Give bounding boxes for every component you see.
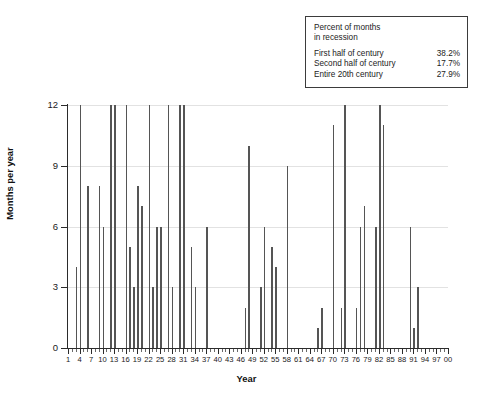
x-axis-tick-minor [156, 349, 157, 352]
x-axis-tick-minor [325, 349, 326, 352]
x-axis-tick-minor [210, 349, 211, 352]
bar [360, 227, 362, 349]
x-axis-tick-major [103, 349, 104, 354]
bar [133, 287, 135, 348]
y-axis-tick-label: 0 [20, 342, 58, 353]
x-axis-tick-major [126, 349, 127, 354]
bar [341, 308, 343, 349]
x-axis-tick-minor [76, 349, 77, 352]
legend-row-label: Second half of century [314, 59, 395, 70]
x-axis-tick-major [344, 349, 345, 354]
x-axis-tick-label: 34 [190, 355, 198, 364]
x-axis-tick-label: 82 [375, 355, 383, 364]
bar [126, 105, 128, 348]
x-axis-tick-major [252, 349, 253, 354]
y-axis-title: Months per year [4, 147, 15, 219]
legend-row-value: 27.9% [431, 70, 460, 81]
x-axis-tick-major [287, 349, 288, 354]
bar [110, 105, 112, 348]
bar [271, 247, 273, 348]
x-axis-tick-major [264, 349, 265, 354]
x-axis-tick-major [114, 349, 115, 354]
x-axis-tick-major [356, 349, 357, 354]
x-axis-tick-minor [429, 349, 430, 352]
x-axis-tick-label: 61 [294, 355, 302, 364]
x-axis-tick-major [160, 349, 161, 354]
x-axis-tick-minor [256, 349, 257, 352]
x-axis-tick-major [206, 349, 207, 354]
bar [152, 287, 154, 348]
x-axis-tick-minor [406, 349, 407, 352]
bar [248, 146, 250, 349]
bar [137, 186, 139, 348]
x-axis-tick-major [298, 349, 299, 354]
bar [383, 125, 385, 348]
x-axis-tick-minor [433, 349, 434, 352]
bar [168, 105, 170, 348]
x-axis-tick-minor [83, 349, 84, 352]
x-axis-tick-label: 88 [398, 355, 406, 364]
x-axis-tick-minor [337, 349, 338, 352]
x-axis-tick-minor [314, 349, 315, 352]
x-axis-tick-minor [294, 349, 295, 352]
x-axis-tick-label: 25 [156, 355, 164, 364]
bar [375, 227, 377, 349]
bar [245, 308, 247, 349]
x-axis-tick-major [241, 349, 242, 354]
bar [99, 186, 101, 348]
x-axis-line [67, 348, 449, 349]
bar [195, 287, 197, 348]
x-axis-tick-minor [421, 349, 422, 352]
bar [410, 227, 412, 349]
bar [80, 105, 82, 348]
x-axis-tick-minor [387, 349, 388, 352]
x-axis-tick-minor [175, 349, 176, 352]
x-axis-tick-minor [260, 349, 261, 352]
x-axis-tick-label: 7 [89, 355, 93, 364]
x-axis-tick-minor [168, 349, 169, 352]
x-axis-tick-minor [222, 349, 223, 352]
bar [183, 105, 185, 348]
x-axis-tick-major [91, 349, 92, 354]
x-axis-tick-minor [233, 349, 234, 352]
bar [321, 308, 323, 349]
legend-row-value: 38.2% [431, 49, 460, 60]
x-axis-tick-minor [72, 349, 73, 352]
x-axis-tick-minor [348, 349, 349, 352]
y-axis-tick-label: 6 [20, 221, 58, 232]
legend-row: First half of century38.2% [314, 49, 460, 60]
x-axis-tick-major [310, 349, 311, 354]
x-axis-tick-minor [87, 349, 88, 352]
x-axis-tick-major [413, 349, 414, 354]
bar [129, 247, 131, 348]
x-axis-tick-minor [410, 349, 411, 352]
x-axis-tick-minor [118, 349, 119, 352]
bar [149, 105, 151, 348]
x-axis-tick-major [402, 349, 403, 354]
x-axis-tick-label: 46 [236, 355, 244, 364]
x-axis-tick-minor [225, 349, 226, 352]
x-axis-tick-label: 31 [179, 355, 187, 364]
x-axis-tick-label: 70 [329, 355, 337, 364]
bar [287, 166, 289, 348]
bar [160, 227, 162, 349]
x-axis-tick-minor [268, 349, 269, 352]
x-axis-tick-minor [110, 349, 111, 352]
x-axis-tick-major [149, 349, 150, 354]
x-axis-tick-minor [352, 349, 353, 352]
x-axis-tick-major [218, 349, 219, 354]
x-axis-tick-label: 13 [110, 355, 118, 364]
bar [413, 328, 415, 348]
legend-box: Percent of months in recession First hal… [305, 16, 468, 88]
x-axis-tick-major [448, 349, 449, 354]
y-axis-labels: 036912 [16, 0, 58, 398]
bar [317, 328, 319, 348]
x-axis-tick-minor [444, 349, 445, 352]
y-axis-tick [61, 227, 67, 228]
x-axis-tick-minor [329, 349, 330, 352]
x-axis-tick-major [137, 349, 138, 354]
x-axis-tick-label: 73 [340, 355, 348, 364]
x-axis-tick-major [68, 349, 69, 354]
x-axis-tick-minor [237, 349, 238, 352]
x-axis-tick-label: 00 [444, 355, 452, 364]
